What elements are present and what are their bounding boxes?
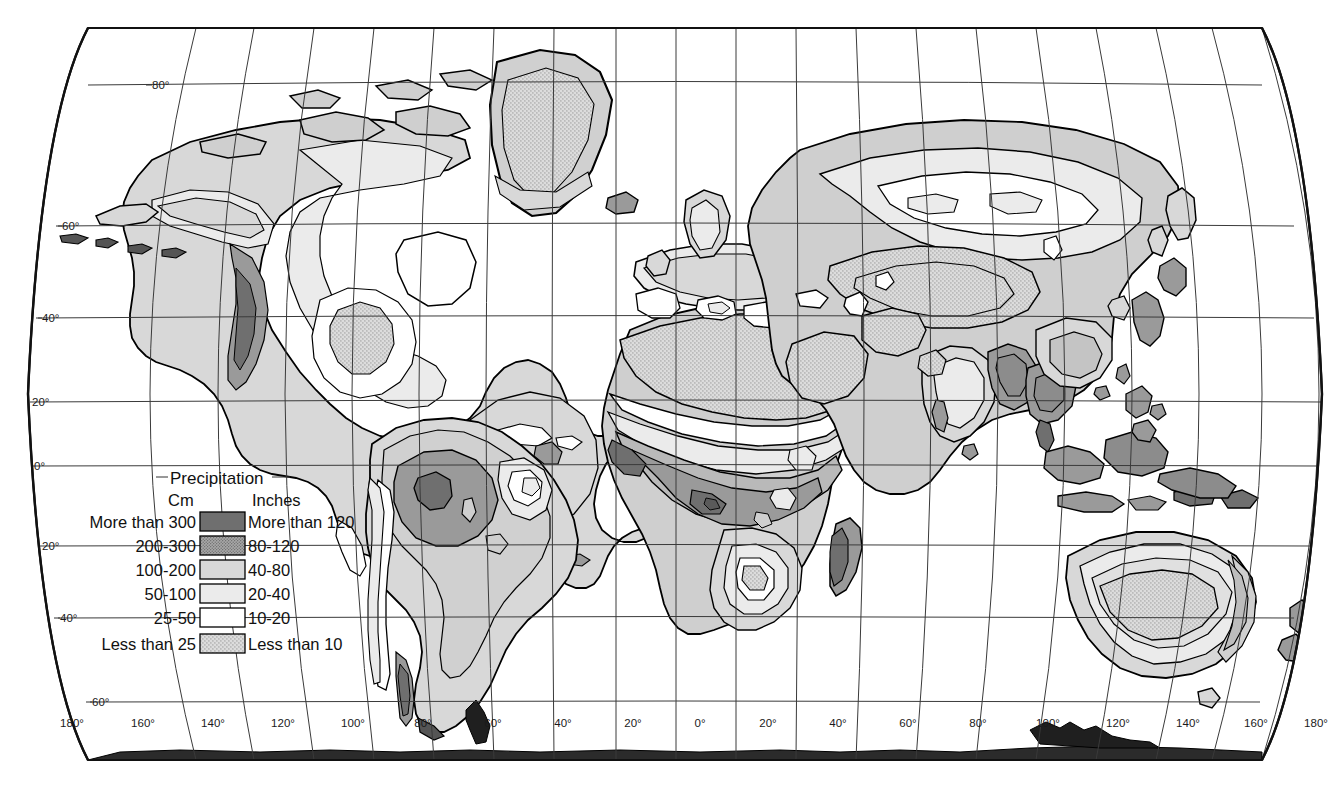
lon-label-80E: 80°	[969, 717, 986, 729]
lat-label-20N: 20°	[32, 396, 49, 408]
lon-label-120E: 120°	[1106, 717, 1130, 729]
svg-text:40°: 40°	[60, 612, 77, 624]
legend-in-1: 80-120	[248, 537, 299, 555]
legend-cm-5: Less than 25	[102, 635, 197, 653]
svg-text:60°: 60°	[92, 696, 109, 708]
lon-label-100W: 100°	[341, 717, 365, 729]
legend-swatch-2	[200, 560, 245, 579]
legend-header-cm: Cm	[168, 491, 194, 509]
legend-swatch-1	[200, 536, 245, 555]
legend-swatch-3	[200, 584, 245, 603]
precipitation-map-figure: 80° 60° 40° 20° 0° 20° 40° 60° 180° 160°…	[0, 0, 1339, 789]
lat-label-0: 0°	[34, 460, 45, 472]
legend-cm-1: 200-300	[135, 537, 196, 555]
legend-in-5: Less than 10	[248, 635, 343, 653]
svg-text:0°: 0°	[34, 460, 45, 472]
svg-text:20°: 20°	[42, 540, 59, 552]
lon-label-100E: 100°	[1036, 717, 1060, 729]
lon-label-80W: 80°	[414, 717, 431, 729]
legend-in-2: 40-80	[248, 561, 290, 579]
world-map-svg: 80° 60° 40° 20° 0° 20° 40° 60° 180° 160°…	[0, 0, 1339, 789]
legend-header-inches: Inches	[252, 491, 301, 509]
legend-row-1: 200-300 80-120	[135, 536, 299, 555]
legend-swatch-0	[200, 512, 245, 531]
legend-in-0: More than 120	[248, 513, 354, 531]
legend-title: Precipitation	[170, 469, 264, 488]
legend-row-3: 50-100 20-40	[145, 584, 291, 603]
legend-cm-4: 25-50	[154, 609, 196, 627]
legend-swatch-5	[200, 634, 245, 653]
lon-label-60E: 60°	[899, 717, 916, 729]
lon-label-20E: 20°	[759, 717, 776, 729]
lon-label-40E: 40°	[829, 717, 846, 729]
lon-label-160W: 160°	[131, 717, 155, 729]
map-body	[0, 0, 1339, 789]
svg-text:60°: 60°	[62, 220, 79, 232]
legend-cm-2: 100-200	[135, 561, 196, 579]
lon-label-180E: 180°	[1304, 717, 1328, 729]
lon-label-160E: 160°	[1244, 717, 1268, 729]
lat-label-20S: 20°	[42, 540, 59, 552]
svg-text:80°: 80°	[152, 79, 169, 91]
lon-label-60W: 60°	[484, 717, 501, 729]
lon-label-120W: 120°	[271, 717, 295, 729]
legend-in-3: 20-40	[248, 585, 290, 603]
lon-label-0: 0°	[695, 717, 706, 729]
lon-label-20W: 20°	[624, 717, 641, 729]
legend-cm-3: 50-100	[145, 585, 196, 603]
legend-row-2: 100-200 40-80	[135, 560, 290, 579]
lon-label-40W: 40°	[554, 717, 571, 729]
svg-text:20°: 20°	[32, 396, 49, 408]
legend-row-0: More than 300 More than 120	[90, 512, 355, 531]
lon-label-180W: 180°	[60, 717, 84, 729]
lon-label-140E: 140°	[1176, 717, 1200, 729]
legend-row-4: 25-50 10-20	[154, 608, 290, 627]
svg-text:40°: 40°	[42, 312, 59, 324]
lon-label-140W: 140°	[201, 717, 225, 729]
legend-swatch-4	[200, 608, 245, 627]
legend-row-5: Less than 25 Less than 10	[102, 634, 343, 653]
legend-in-4: 10-20	[248, 609, 290, 627]
legend-cm-0: More than 300	[90, 513, 196, 531]
